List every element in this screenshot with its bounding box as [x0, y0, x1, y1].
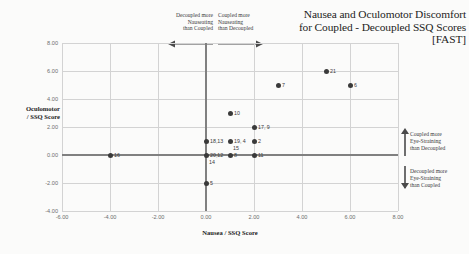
data-point: [324, 69, 329, 74]
y-axis-tick-label: 8.00: [47, 40, 58, 46]
data-point: [252, 153, 257, 158]
data-point-label: 2: [258, 138, 261, 144]
data-point-label: 21: [330, 68, 336, 74]
data-point-label: 18,13: [210, 138, 223, 144]
arrow-up-icon: [401, 128, 409, 134]
x-axis-tick-label: -6.00: [56, 214, 69, 220]
annotation-decoupled-nausea-line-1: Decoupled more: [150, 12, 213, 19]
gridline-vertical: [62, 43, 63, 211]
data-point-label: 19, 4: [234, 138, 246, 144]
annotation-coupled-more-nauseating: Coupled more Nauseating than Decoupled: [218, 12, 281, 32]
data-point: [276, 83, 281, 88]
annotation-coupled-eye-line-2: Eye-Straining: [410, 138, 445, 145]
y-axis-tick-label: -2.00: [45, 180, 58, 186]
data-point: [348, 83, 353, 88]
scatter-chart: Nausea and Oculomotor Discomfort for Cou…: [0, 0, 469, 254]
gridline-horizontal: [62, 127, 398, 128]
x-axis-tick-label: -4.00: [104, 214, 117, 220]
data-point-label: 17, 9: [258, 124, 270, 130]
x-axis-tick-label: 2.00: [249, 214, 260, 220]
gridline-horizontal: [62, 183, 398, 184]
annotation-decoupled-eye-line-2: Eye-Straining: [410, 175, 447, 182]
annotation-coupled-nausea-line-2: Nauseating: [218, 19, 281, 26]
x-axis-tick-label: 4.00: [297, 214, 308, 220]
annotation-coupled-more-eye-straining: Coupled more Eye-Straining than Decouple…: [410, 131, 445, 151]
data-point-label: 11: [258, 152, 264, 158]
arrow-right-wrapper: [218, 34, 263, 42]
gridline-vertical: [158, 43, 159, 211]
y-zero-axis: [205, 43, 207, 211]
annotation-decoupled-more-eye-straining: Decoupled more Eye-Straining than Couple…: [410, 168, 447, 188]
data-point: [204, 153, 209, 158]
annotation-decoupled-eye-line-3: than Coupled: [410, 182, 447, 189]
data-point: [108, 153, 113, 158]
data-point-label: 7: [282, 82, 285, 88]
gridline-vertical: [350, 43, 351, 211]
data-point-label: 8: [234, 152, 237, 158]
x-axis-tick-label: -2.00: [152, 214, 165, 220]
y-axis-title: Oculomotor / SSQ Score: [4, 105, 60, 121]
annotation-coupled-nausea-line-1: Coupled more: [218, 12, 281, 19]
data-point-label: 10: [234, 110, 240, 116]
annotation-coupled-nausea-line-3: than Decoupled: [218, 25, 281, 32]
gridline-horizontal: [62, 99, 398, 100]
gridline-vertical: [110, 43, 111, 211]
annotation-decoupled-nausea-line-3: than Coupled: [150, 25, 213, 32]
y-axis-tick-label: 4.00: [47, 96, 58, 102]
data-point-label: 6: [354, 82, 357, 88]
data-point: [252, 125, 257, 130]
y-axis-tick-label: 0.00: [47, 152, 58, 158]
data-point: [228, 139, 233, 144]
data-point: [228, 111, 233, 116]
annotation-coupled-eye-line-1: Coupled more: [410, 131, 445, 138]
data-point-label: 15: [233, 145, 239, 151]
gridline-horizontal: [62, 43, 398, 44]
annotation-decoupled-more-nauseating: Decoupled more Nauseating than Coupled: [150, 12, 213, 32]
data-point: [204, 181, 209, 186]
x-axis-tick-label: 0.00: [201, 214, 212, 220]
y-axis-tick-label: 2.00: [47, 124, 58, 130]
data-point-label: 20,12: [210, 152, 223, 158]
annotation-coupled-eye-line-3: than Decoupled: [410, 145, 445, 152]
x-axis-tick-label: 6.00: [345, 214, 356, 220]
gridline-horizontal: [62, 71, 398, 72]
y-axis-title-line-2: / SSQ Score: [4, 113, 60, 121]
arrow-down-icon: [401, 183, 409, 189]
data-point: [228, 153, 233, 158]
data-point: [252, 139, 257, 144]
annotation-up-bar: [404, 134, 406, 156]
gridline-vertical: [398, 43, 399, 211]
gridline-horizontal: [62, 211, 398, 212]
data-point-label: 14: [209, 159, 215, 165]
x-axis-tick-label: 8.00: [393, 214, 404, 220]
annotation-decoupled-nausea-line-2: Nauseating: [150, 19, 213, 26]
arrow-left-wrapper: [168, 34, 213, 42]
y-axis-title-line-1: Oculomotor: [4, 105, 60, 113]
x-axis-title: Nausea / SSQ Score: [62, 229, 398, 236]
gridline-vertical: [302, 43, 303, 211]
data-point-label: 16: [114, 152, 120, 158]
plot-area: 8.006.004.002.000.00-2.00-4.00-6.00-4.00…: [62, 43, 398, 211]
data-point: [204, 139, 209, 144]
annotation-decoupled-eye-line-1: Decoupled more: [410, 168, 447, 175]
data-point-label: 5: [210, 180, 213, 186]
y-axis-tick-label: 6.00: [47, 68, 58, 74]
